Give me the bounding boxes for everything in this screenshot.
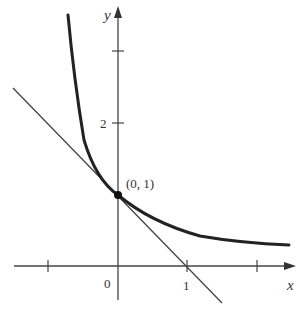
x-axis-arrow-icon	[284, 262, 296, 270]
y-axis-label: y	[102, 7, 111, 23]
graph: y x 0 1 2 (0, 1)	[0, 0, 300, 309]
y-axis-arrow-icon	[114, 6, 122, 18]
origin-label: 0	[104, 276, 111, 291]
y-tick-label-2: 2	[100, 116, 107, 131]
x-tick-label-1: 1	[183, 278, 190, 293]
point-label: (0, 1)	[126, 176, 154, 191]
point-0-1	[114, 191, 122, 199]
x-axis-label: x	[286, 277, 294, 293]
